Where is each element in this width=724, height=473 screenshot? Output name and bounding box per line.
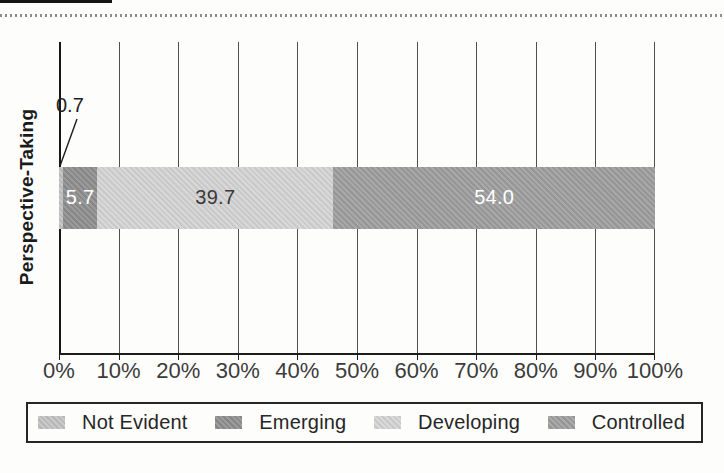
x-tick-80: 80%	[514, 358, 558, 384]
legend-label-developing: Developing	[418, 411, 520, 434]
legend-swatch-emerging	[215, 416, 242, 429]
legend-swatch-controlled	[548, 416, 575, 429]
legend-label-not-evident: Not Evident	[82, 411, 188, 434]
legend-item-controlled: Controlled	[548, 411, 685, 434]
bar-segment-developing: 39.7	[97, 167, 333, 229]
legend-item-developing: Developing	[374, 411, 520, 434]
x-tick-30: 30%	[216, 358, 260, 384]
x-tick-10: 10%	[97, 358, 141, 384]
dotted-divider	[0, 14, 724, 17]
plot-area: 5.7 39.7 54.0 0.7	[59, 42, 655, 355]
y-axis-title: Perspective-Taking	[16, 109, 38, 285]
x-tick-70: 70%	[454, 358, 498, 384]
x-tick-40: 40%	[275, 358, 319, 384]
x-tick-0: 0%	[43, 358, 75, 384]
x-tick-90: 90%	[573, 358, 617, 384]
legend-item-not-evident: Not Evident	[38, 411, 188, 434]
bar-value-emerging: 5.7	[66, 186, 95, 209]
bar-value-developing: 39.7	[195, 186, 235, 209]
legend-label-emerging: Emerging	[259, 411, 346, 434]
x-tick-100: 100%	[627, 358, 683, 384]
scanned-chart-page: Perspective-Taking 5.7 39.7 54.0	[0, 0, 724, 473]
top-left-rule	[0, 0, 112, 3]
legend-box: Not Evident Emerging Developing Controll…	[26, 402, 703, 443]
legend-swatch-developing	[374, 416, 401, 429]
stacked-bar: 5.7 39.7 54.0	[59, 167, 655, 229]
x-tick-20: 20%	[156, 358, 200, 384]
x-tick-50: 50%	[335, 358, 379, 384]
bar-value-not-evident-callout: 0.7	[56, 94, 84, 117]
legend-item-emerging: Emerging	[215, 411, 346, 434]
legend-swatch-not-evident	[38, 416, 65, 429]
bar-segment-controlled: 54.0	[333, 167, 655, 229]
bar-segment-emerging: 5.7	[63, 167, 97, 229]
legend-label-controlled: Controlled	[592, 411, 685, 434]
bar-value-controlled: 54.0	[474, 186, 514, 209]
callout-leader-line	[59, 117, 99, 169]
x-axis-tick-labels: 0% 10% 20% 30% 40% 50% 60% 70% 80% 90% 1…	[59, 358, 655, 384]
x-tick-60: 60%	[395, 358, 439, 384]
